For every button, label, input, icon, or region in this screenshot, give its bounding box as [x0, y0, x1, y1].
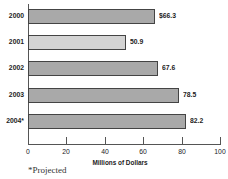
bar: [28, 9, 155, 24]
bar-value-label: 50.9: [130, 37, 143, 46]
x-tick-mark: [28, 137, 29, 145]
x-tick-mark: [182, 137, 183, 145]
x-axis-title: Millions of Dollars: [72, 158, 168, 167]
bar: [28, 35, 126, 50]
x-axis-line: [28, 144, 221, 145]
x-tick-mark: [220, 137, 221, 145]
x-tick-label: 0: [20, 147, 37, 156]
y-tick-label: 2002: [4, 63, 24, 72]
bar: [28, 61, 158, 76]
bar: [28, 114, 186, 129]
y-tick-label: 2000: [4, 11, 24, 20]
x-tick-label: 60: [135, 147, 152, 156]
bar-chart: 2000$66.3200150.9200267.6200378.52004*82…: [0, 0, 227, 179]
bar-value-label: 78.5: [183, 90, 196, 99]
y-tick-label: 2003: [4, 90, 24, 99]
footnote: *Projected: [28, 165, 67, 175]
y-tick-label: 2001: [4, 37, 24, 46]
bar-value-label: 82.2: [190, 116, 203, 125]
x-tick-label: 80: [173, 147, 190, 156]
bar: [28, 88, 179, 103]
x-tick-label: 20: [58, 147, 75, 156]
x-tick-mark: [143, 137, 144, 145]
x-tick-label: 40: [96, 147, 113, 156]
y-tick-label: 2004*: [4, 116, 24, 125]
bar-value-label: 67.6: [162, 63, 175, 72]
x-tick-label: 100: [212, 147, 228, 156]
bar-value-label: $66.3: [159, 11, 176, 20]
x-tick-mark: [66, 137, 67, 145]
x-tick-mark: [105, 137, 106, 145]
